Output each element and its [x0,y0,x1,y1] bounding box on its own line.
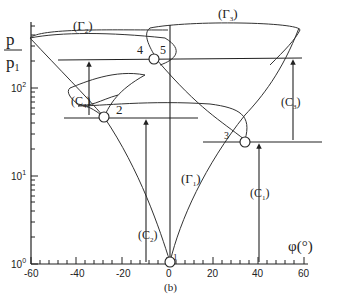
label-gamma3: (Γ3) [218,6,238,23]
label-c2: (C2) [138,228,158,244]
arrows [89,62,293,262]
shock-polar-diagram: p p1 100 101 102 -60 -40 -20 0 20 40 60 … [0,0,337,299]
label-gamma2: (Γ2) [73,18,93,35]
ylabel-p: p [6,30,15,49]
xtick-20: 20 [207,268,219,279]
point-2 [99,112,109,122]
xtick-m20: -20 [116,268,131,279]
label-c4: (C4) [71,94,91,110]
gamma1-right-curve [170,28,299,262]
label-point-5: 5 [160,43,166,57]
ytick-10-1: 101 [11,169,26,182]
label-point-2: 2 [116,102,123,117]
ytick-10-2: 102 [11,81,26,94]
label-point-3: 3 [224,130,229,141]
point-4-5 [149,54,159,64]
label-point-1: 1 [173,252,178,262]
xtick-m40: -40 [70,268,85,279]
caption-b: (b) [164,281,177,294]
shock-line-top [58,58,302,60]
point-3 [240,137,250,147]
label-gamma1: (Γ1) [181,171,201,188]
xtick-40: 40 [252,268,264,279]
xtick-m60: -60 [24,268,39,279]
xtick-0: 0 [166,268,172,279]
state-points [99,54,250,267]
label-c3: (C3) [281,95,301,111]
y-ticks [31,26,38,264]
label-point-4: 4 [137,43,143,57]
shock-lines [58,25,322,264]
xlabel-phi: φ(°) [288,238,313,255]
label-c1: (C1) [250,186,270,202]
xtick-60: 60 [298,268,310,279]
ylabel-p1: p1 [6,53,20,73]
